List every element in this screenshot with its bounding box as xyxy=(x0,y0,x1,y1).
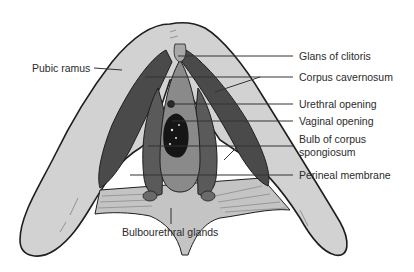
diagram-canvas: Pubic ramus Glans of clitoris Corpus cav… xyxy=(0,0,414,272)
label-pubic-ramus: Pubic ramus xyxy=(32,62,90,74)
glans-clitoris xyxy=(174,44,186,62)
label-bulbourethral-glands: Bulbourethral glands xyxy=(122,226,218,238)
perineal-membrane xyxy=(95,178,290,255)
bulbourethral-gland-left xyxy=(143,191,157,201)
label-vaginal-opening: Vaginal opening xyxy=(299,115,374,127)
label-perineal-membrane: Perineal membrane xyxy=(299,169,391,181)
label-bulb-line1: Bulb of corpus xyxy=(299,133,366,145)
label-glans-of-clitoris: Glans of clitoris xyxy=(299,50,371,62)
label-corpus-cavernosum: Corpus cavernosum xyxy=(299,71,393,83)
label-urethral-opening: Urethral opening xyxy=(299,98,377,110)
label-bulb-line2: spongiosum xyxy=(299,146,356,158)
vaginal-opening xyxy=(163,113,188,157)
bulbourethral-gland-right xyxy=(201,191,215,201)
